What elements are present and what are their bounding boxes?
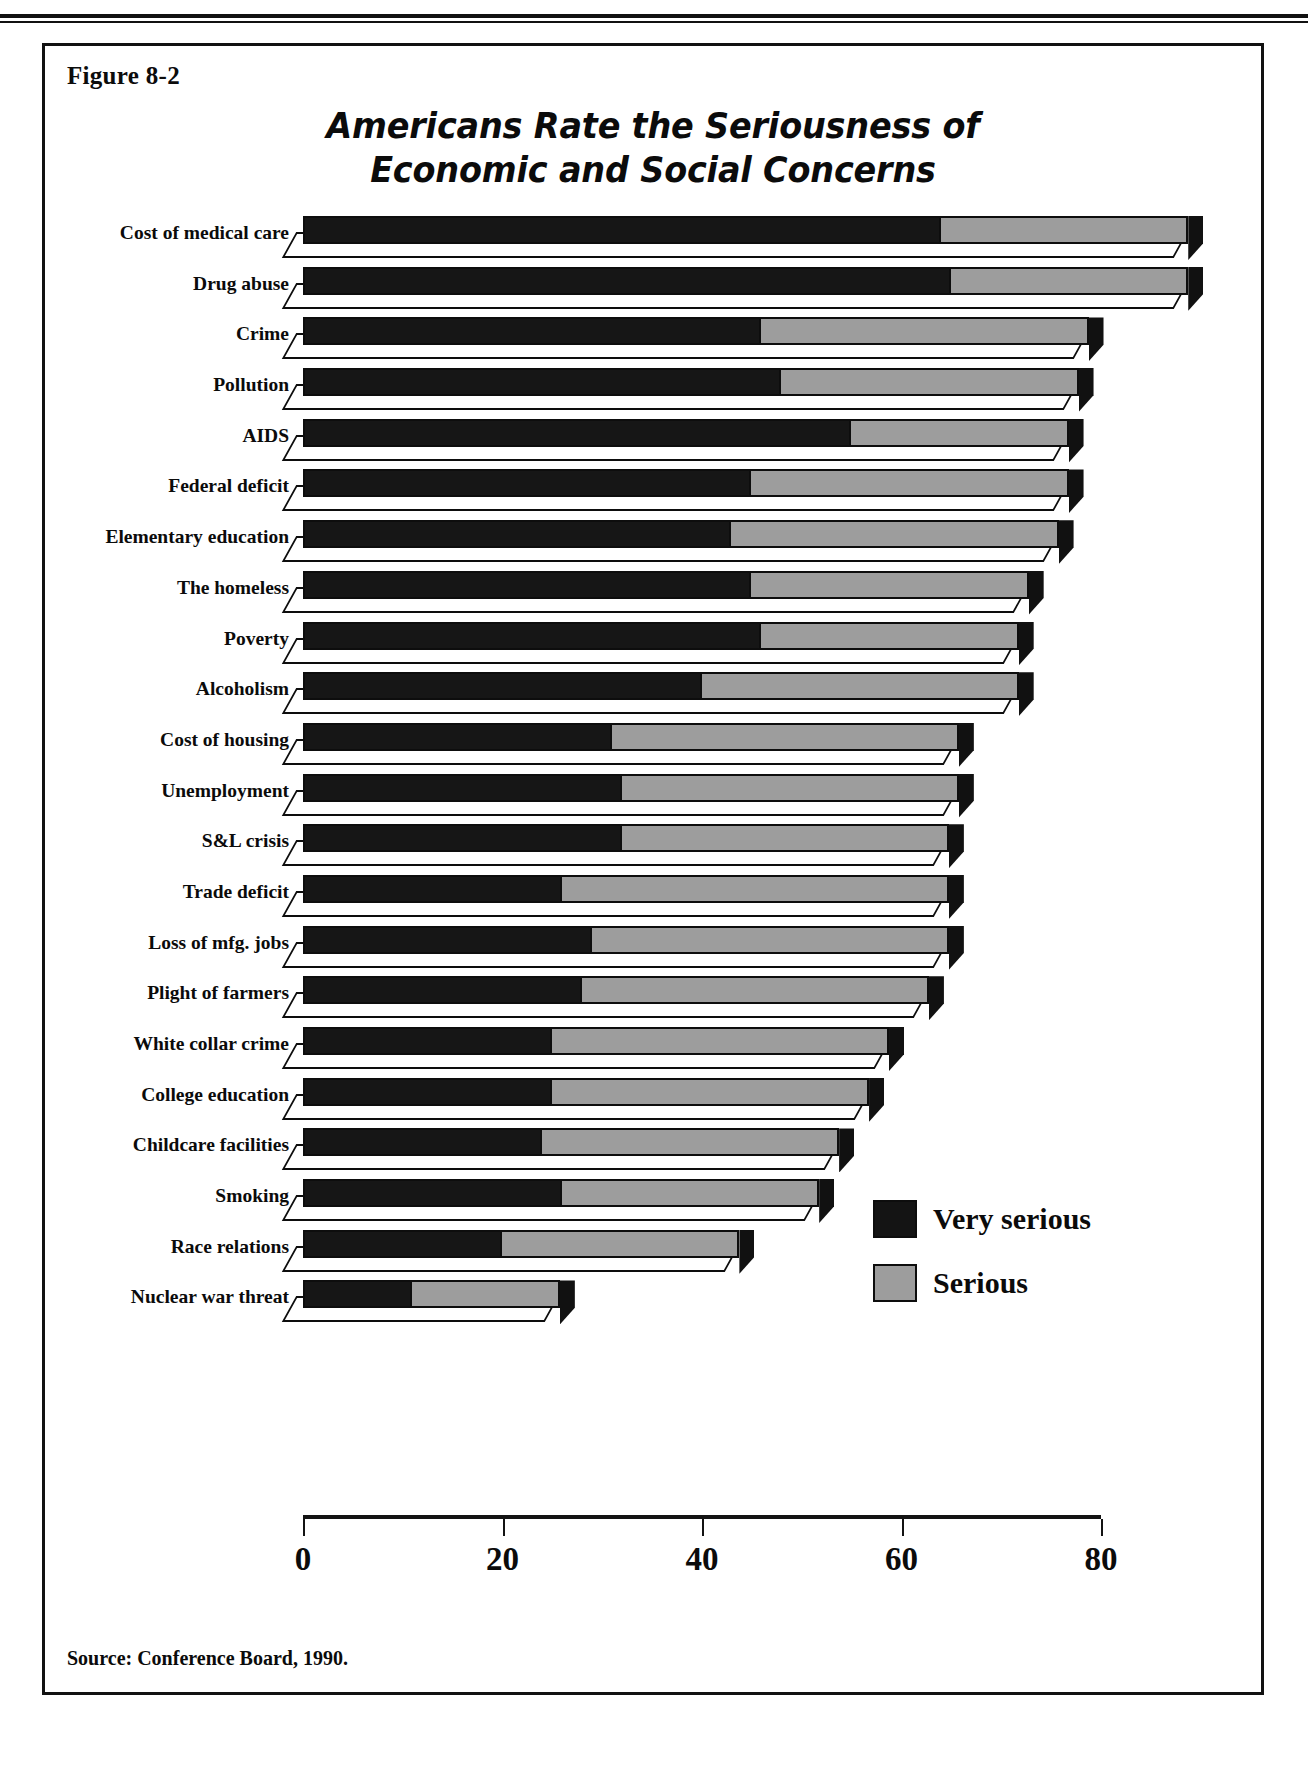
x-axis-tick-label: 80: [1085, 1541, 1118, 1578]
bar-segment-serious: [749, 571, 1028, 599]
bar-front-faces: [303, 1280, 557, 1308]
bar-segment-serious: [749, 469, 1068, 497]
bar-row: Loss of mfg. jobs: [45, 924, 1261, 975]
bar-front-faces: [303, 774, 956, 802]
bar-row: Pollution: [45, 366, 1261, 417]
bar-front-faces: [303, 1179, 817, 1207]
bar-front-faces: [303, 926, 946, 954]
category-label: Drug abuse: [49, 273, 289, 295]
bar-row: Unemployment: [45, 772, 1261, 823]
bar-segment-serious: [620, 774, 959, 802]
bar-end-cap-3d: [1069, 419, 1084, 463]
bar-end-cap-3d: [1059, 520, 1074, 564]
bar-segment-serious: [610, 723, 959, 751]
bar-front-faces: [303, 368, 1076, 396]
bar-segment-very-serious: [303, 571, 752, 599]
bar-front-faces: [303, 824, 946, 852]
bar-rows: Cost of medical careDrug abuseCrimePollu…: [45, 214, 1261, 1329]
bar-segment-very-serious: [303, 622, 762, 650]
chart-title-line-2: Economic and Social Concerns: [88, 148, 1219, 192]
page-top-rule-thin: [0, 21, 1308, 23]
bar-row: Trade deficit: [45, 873, 1261, 924]
bar-end-cap-3d: [560, 1280, 575, 1324]
bar-segment-serious: [779, 368, 1078, 396]
bar-end-cap-3d: [1188, 267, 1203, 311]
x-axis-tick-label: 60: [885, 1541, 918, 1578]
bar-segment-serious: [729, 520, 1058, 548]
category-label: Federal deficit: [49, 475, 289, 497]
bar-segment-very-serious: [303, 976, 582, 1004]
bar-end-cap-3d: [949, 824, 964, 868]
bar-row: Elementary education: [45, 518, 1261, 569]
bar-segment-very-serious: [303, 1230, 503, 1258]
bar-segment-serious: [560, 1179, 819, 1207]
x-axis-tick-label: 20: [486, 1541, 519, 1578]
bar-end-cap-3d: [949, 875, 964, 919]
bar-end-cap-3d: [949, 926, 964, 970]
bar-row: Crime: [45, 315, 1261, 366]
bar-segment-very-serious: [303, 875, 562, 903]
bar-end-cap-3d: [839, 1128, 854, 1172]
bar-end-cap-3d: [1079, 368, 1094, 412]
bar-end-cap-3d: [869, 1078, 884, 1122]
bar-segment-very-serious: [303, 419, 852, 447]
bar-segment-serious: [849, 419, 1068, 447]
bar-row: Childcare facilities: [45, 1126, 1261, 1177]
category-label: Elementary education: [49, 526, 289, 548]
bar-end-cap-3d: [739, 1230, 754, 1274]
bar-front-faces: [303, 520, 1056, 548]
bar-segment-very-serious: [303, 1280, 413, 1308]
x-axis-tick: [902, 1519, 904, 1536]
category-label: S&L crisis: [49, 830, 289, 852]
bar-segment-serious: [700, 672, 1019, 700]
category-label: Cost of housing: [49, 729, 289, 751]
category-label: Trade deficit: [49, 881, 289, 903]
category-label: Pollution: [49, 374, 289, 396]
bar-row: White collar crime: [45, 1025, 1261, 1076]
bar-segment-very-serious: [303, 672, 702, 700]
bar-segment-serious: [949, 267, 1188, 295]
bar-end-cap-3d: [1188, 216, 1203, 260]
bar-end-cap-3d: [929, 976, 944, 1020]
bar-front-faces: [303, 469, 1066, 497]
bar-segment-very-serious: [303, 368, 782, 396]
legend-label-very-serious: Very serious: [933, 1202, 1091, 1236]
bar-segment-very-serious: [303, 723, 612, 751]
bar-segment-very-serious: [303, 1128, 542, 1156]
bar-front-faces: [303, 622, 1016, 650]
category-label: Alcoholism: [49, 678, 289, 700]
bar-front-faces: [303, 1230, 737, 1258]
bar-segment-very-serious: [303, 216, 941, 244]
bar-row: Plight of farmers: [45, 974, 1261, 1025]
bar-end-cap-3d: [1019, 672, 1034, 716]
bar-front-faces: [303, 976, 926, 1004]
category-label: Loss of mfg. jobs: [49, 932, 289, 954]
bar-end-cap-3d: [819, 1179, 834, 1223]
bar-row: Federal deficit: [45, 467, 1261, 518]
bar-row: Poverty: [45, 620, 1261, 671]
category-label: Poverty: [49, 628, 289, 650]
bar-end-cap-3d: [1089, 317, 1104, 361]
bar-segment-serious: [620, 824, 949, 852]
x-axis-tick: [303, 1519, 305, 1536]
category-label: White collar crime: [49, 1033, 289, 1055]
bar-front-faces: [303, 419, 1066, 447]
bar-segment-very-serious: [303, 774, 622, 802]
bar-segment-very-serious: [303, 926, 592, 954]
bar-front-faces: [303, 1027, 887, 1055]
category-label: Unemployment: [49, 780, 289, 802]
category-label: Smoking: [49, 1185, 289, 1207]
bar-segment-serious: [759, 622, 1018, 650]
bar-segment-very-serious: [303, 469, 752, 497]
bar-row: Drug abuse: [45, 265, 1261, 316]
bar-row: The homeless: [45, 569, 1261, 620]
bar-front-faces: [303, 1128, 837, 1156]
x-axis-tick-label: 40: [686, 1541, 719, 1578]
category-label: Race relations: [49, 1236, 289, 1258]
bar-row: S&L crisis: [45, 822, 1261, 873]
bar-row: Alcoholism: [45, 670, 1261, 721]
bar-front-faces: [303, 571, 1026, 599]
chart-title: Americans Rate the Seriousness of Econom…: [88, 104, 1219, 192]
legend-swatch-very-serious-icon: [873, 1200, 917, 1238]
legend-item-serious: Serious: [873, 1264, 1213, 1302]
